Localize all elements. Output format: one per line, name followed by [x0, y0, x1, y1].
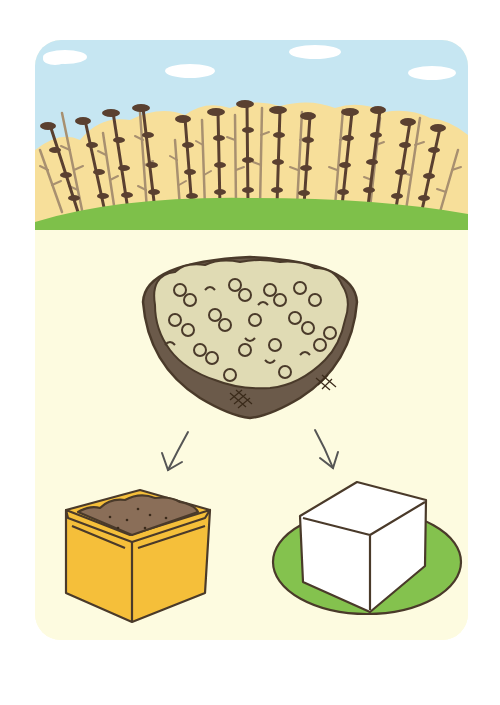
soybean-process-illustration: [35, 40, 468, 640]
illustration-card: Soybean field at top; a bowl of cooked s…: [35, 40, 468, 640]
